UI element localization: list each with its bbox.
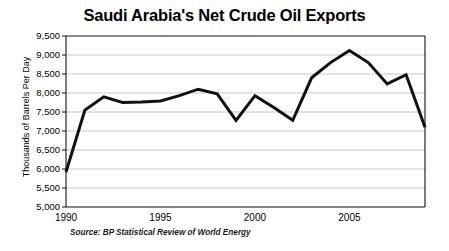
x-tick-labels: 1990199520002005 bbox=[55, 212, 361, 223]
chart-figure: Saudi Arabia's Net Crude Oil Exports Tho… bbox=[0, 0, 449, 251]
line-chart-plot: 9,5009,0008,5008,0007,5007,0006,5006,000… bbox=[0, 0, 449, 251]
x-tick-label: 2000 bbox=[244, 212, 267, 223]
y-tick-label: 6,500 bbox=[36, 144, 60, 155]
axis-frame bbox=[66, 36, 425, 207]
y-tick-label: 7,500 bbox=[36, 106, 60, 117]
y-tick-label: 9,500 bbox=[36, 30, 60, 41]
y-tick-label: 6,000 bbox=[36, 163, 60, 174]
x-tick-label: 2005 bbox=[338, 212, 361, 223]
y-tick-label: 5,000 bbox=[36, 201, 60, 212]
source-note: Source: BP Statistical Review of World E… bbox=[70, 228, 251, 237]
y-tick-label: 8,500 bbox=[36, 68, 60, 79]
x-tick-label: 1995 bbox=[149, 212, 172, 223]
y-tick-label: 8,000 bbox=[36, 87, 60, 98]
y-tick-label: 7,000 bbox=[36, 125, 60, 136]
data-series-line bbox=[66, 50, 425, 172]
x-tick-label: 1990 bbox=[55, 212, 78, 223]
y-tick-labels: 9,5009,0008,5008,0007,5007,0006,5006,000… bbox=[36, 30, 66, 212]
gridlines-group bbox=[66, 55, 425, 188]
y-tick-label: 9,000 bbox=[36, 49, 60, 60]
y-tick-label: 5,500 bbox=[36, 182, 60, 193]
